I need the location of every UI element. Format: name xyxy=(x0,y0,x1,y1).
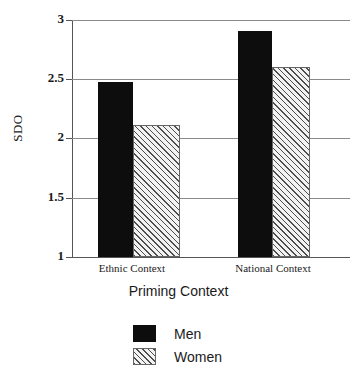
y-tick-label-2: 2 xyxy=(58,130,65,143)
category-label-national-context: National Context xyxy=(208,262,338,274)
y-tick-label-2.5: 2.5 xyxy=(48,71,64,84)
legend: Men Women xyxy=(133,322,263,368)
plot-area xyxy=(72,20,350,257)
bar-women-ethnic-context xyxy=(133,125,180,257)
gridline-baseline-1 xyxy=(72,257,350,258)
legend-swatch-men-icon xyxy=(133,325,156,342)
y-axis-title: SDO xyxy=(10,98,26,158)
bar-men-ethnic-context xyxy=(98,82,133,257)
gridline-3 xyxy=(72,20,350,21)
bar-men-national-context xyxy=(238,31,272,257)
legend-entry-men: Men xyxy=(133,322,263,345)
x-axis-title: Priming Context xyxy=(0,283,357,299)
bar-chart-figure: SDO 3 2.5 2 1.5 1 Ethnic Context Nationa… xyxy=(0,0,357,380)
legend-label-men: Men xyxy=(174,326,201,342)
legend-swatch-women-icon xyxy=(133,348,156,365)
bar-women-national-context xyxy=(272,67,310,257)
y-tick-label-1.5: 1.5 xyxy=(48,190,64,203)
legend-entry-women: Women xyxy=(133,345,263,368)
category-label-ethnic-context: Ethnic Context xyxy=(72,262,192,274)
y-tick-label-1: 1 xyxy=(58,249,65,262)
legend-label-women: Women xyxy=(174,349,222,365)
y-tick-label-3: 3 xyxy=(58,12,65,25)
